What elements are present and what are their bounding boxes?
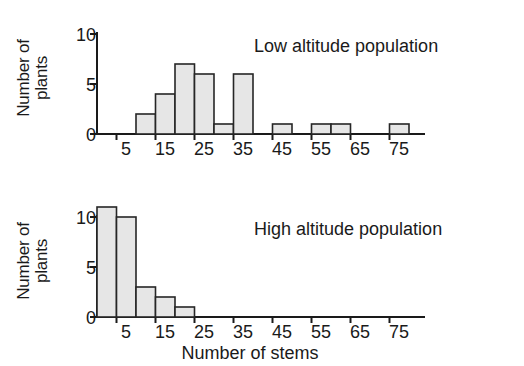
x-tick-label-35: 35 <box>226 140 260 158</box>
x-tick-label-55: 55 <box>304 140 338 158</box>
histogram-bar <box>312 124 332 134</box>
histogram-bar <box>390 124 410 134</box>
plot-area-high-altitude <box>0 183 524 366</box>
x-tick-label-75: 75 <box>382 323 416 341</box>
x-tick-label-15: 15 <box>148 323 182 341</box>
histogram-bar <box>331 124 351 134</box>
histogram-figure: Number of plants 10 5 0 Low altitude pop… <box>0 0 524 366</box>
x-tick-label-15: 15 <box>148 140 182 158</box>
histogram-bar <box>97 207 117 317</box>
x-tick-label-65: 65 <box>343 323 377 341</box>
histogram-bar <box>136 287 156 317</box>
x-tick-label-35: 35 <box>226 323 260 341</box>
histogram-bar <box>175 307 195 317</box>
histogram-bar <box>117 217 137 317</box>
histogram-bar <box>156 297 176 317</box>
histogram-bar <box>175 64 195 134</box>
x-tick-label-45: 45 <box>265 323 299 341</box>
histogram-bar <box>273 124 293 134</box>
x-tick-label-75: 75 <box>382 140 416 158</box>
x-tick-label-5: 5 <box>109 323 143 341</box>
x-tick-label-25: 25 <box>187 140 221 158</box>
plot-area-low-altitude <box>0 0 524 183</box>
x-tick-label-5: 5 <box>109 140 143 158</box>
histogram-bar <box>234 74 254 134</box>
histogram-bar <box>195 74 215 134</box>
chart-panel-low-altitude: Number of plants 10 5 0 Low altitude pop… <box>0 0 524 183</box>
histogram-bar <box>136 114 156 134</box>
histogram-bar <box>214 124 234 134</box>
histogram-bar <box>156 94 176 134</box>
x-tick-label-25: 25 <box>187 323 221 341</box>
x-tick-label-55: 55 <box>304 323 338 341</box>
x-tick-label-45: 45 <box>265 140 299 158</box>
chart-panel-high-altitude: Number of plants 10 5 0 High altitude po… <box>0 183 524 366</box>
x-tick-label-65: 65 <box>343 140 377 158</box>
x-axis-title: Number of stems <box>0 343 512 363</box>
